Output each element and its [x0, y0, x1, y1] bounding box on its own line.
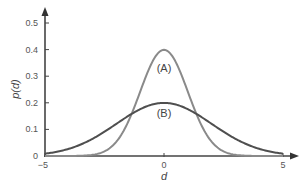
x-tick-label: 0	[161, 160, 166, 170]
y-tick-label: 0.3	[25, 71, 38, 81]
x-axis-arrow-icon	[290, 153, 299, 160]
y-axis-label: p(d)	[9, 79, 21, 100]
y-axis: 00.10.20.30.40.5	[25, 7, 49, 161]
curve-label-a: (A)	[157, 62, 172, 74]
x-tick-label: 5	[280, 160, 285, 170]
y-axis-arrow-icon	[42, 7, 49, 16]
y-tick-label: 0.5	[25, 18, 38, 28]
x-axis-label: d	[161, 170, 168, 182]
x-tick-label: −5	[38, 160, 48, 170]
y-tick-label: 0.2	[25, 98, 38, 108]
curve-label-b: (B)	[157, 107, 172, 119]
chart: 00.10.20.30.40.5 −505 (A)(B) d p(d)	[0, 0, 306, 190]
y-tick-label: 0.1	[25, 124, 38, 134]
y-tick-label: 0.4	[25, 45, 38, 55]
